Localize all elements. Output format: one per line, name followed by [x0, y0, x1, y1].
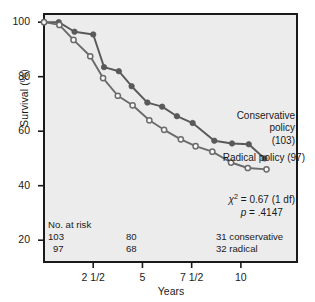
data-point-marker [193, 144, 198, 149]
data-point-marker [130, 103, 135, 108]
risk-table-column-start: 103 97 [48, 231, 64, 255]
statistics-annotation: χ2 = 0.67 (1 df) p = .4147 [229, 190, 295, 219]
data-point-marker [91, 32, 96, 37]
plot-canvas [0, 0, 315, 302]
x-tick-label: 2 1/2 [82, 271, 105, 283]
x-tick-label: 7 1/2 [180, 271, 203, 283]
y-tick-label: 40 [0, 179, 30, 191]
risk-table-column-mid: 80 68 [126, 231, 137, 255]
y-tick-label: 80 [0, 70, 30, 82]
risk-end-radical: 32 radical [216, 243, 283, 255]
data-point-marker [159, 104, 164, 109]
y-tick-label: 60 [0, 124, 30, 136]
data-point-marker [245, 165, 250, 170]
legend-conservative-line2: policy [237, 122, 295, 134]
risk-mid-radical: 68 [126, 243, 137, 255]
data-point-marker [212, 138, 217, 143]
risk-mid-conservative: 80 [126, 231, 137, 243]
chi-value: = 0.67 (1 df) [241, 194, 295, 205]
data-point-marker [190, 120, 195, 125]
legend-label-radical: Radical policy (97) [223, 152, 305, 164]
data-point-marker [162, 127, 167, 132]
y-axis-label: Survival (%) [18, 38, 30, 158]
data-point-marker [72, 29, 77, 34]
data-point-marker [100, 75, 105, 80]
data-point-marker [71, 37, 76, 42]
risk-start-radical: 97 [48, 243, 64, 255]
p-value: = .4147 [249, 207, 283, 218]
risk-end-conservative: 31 conservative [216, 231, 283, 243]
data-point-marker [147, 118, 152, 123]
chi-exponent: 2 [234, 192, 238, 201]
risk-start-conservative: 103 [48, 231, 64, 243]
chi-square-statistic: χ2 = 0.67 (1 df) [229, 190, 295, 206]
risk-table-title: No. at risk [48, 219, 91, 231]
p-value-statistic: p = .4147 [229, 206, 295, 219]
data-point-marker [115, 93, 120, 98]
p-symbol: p [241, 207, 247, 218]
risk-table-column-end: 31 conservative 32 radical [216, 231, 283, 255]
legend-label-conservative: Conservative policy (103) [237, 110, 295, 147]
data-point-marker [264, 167, 269, 172]
y-tick-label: 20 [0, 233, 30, 245]
data-point-marker [229, 141, 234, 146]
x-tick-label: 5 [140, 271, 146, 283]
legend-conservative-line3: (103) [237, 135, 295, 147]
data-point-marker [178, 137, 183, 142]
data-point-marker [41, 20, 46, 25]
data-point-marker [101, 64, 106, 69]
data-point-marker [116, 69, 121, 74]
data-point-marker [210, 149, 215, 154]
legend-conservative-line1: Conservative [237, 110, 295, 122]
x-tick-label: 10 [235, 271, 247, 283]
data-point-marker [174, 113, 179, 118]
data-point-marker [145, 100, 150, 105]
data-point-marker [57, 22, 62, 27]
data-point-marker [129, 84, 134, 89]
x-axis-label: Years [44, 285, 298, 297]
y-tick-label: 100 [0, 15, 30, 27]
survival-chart-figure: Survival (%) Years 10080604020 2 1/257 1… [0, 0, 315, 302]
data-point-marker [88, 54, 93, 59]
